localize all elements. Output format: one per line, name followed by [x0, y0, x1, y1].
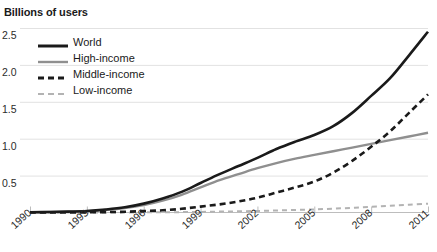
- chart-legend: WorldHigh-incomeMiddle-incomeLow-income: [38, 34, 145, 98]
- legend-swatch-middle-income: [38, 69, 68, 79]
- legend-item-world: World: [38, 34, 145, 50]
- legend-label: Low-income: [73, 85, 132, 96]
- legend-item-middle-income: Middle-income: [38, 66, 145, 82]
- legend-label: World: [73, 37, 102, 48]
- legend-swatch-high-income: [38, 53, 68, 63]
- legend-item-low-income: Low-income: [38, 82, 145, 98]
- chart-figure: Billions of users 0.51.01.52.02.5 199019…: [0, 0, 437, 252]
- y-tick-label-2.0: 2.0: [2, 66, 17, 78]
- series-line-high-income: [30, 133, 428, 212]
- legend-swatch-world: [38, 37, 68, 47]
- series-line-middle-income: [30, 94, 428, 212]
- legend-swatch-low-income: [38, 85, 68, 95]
- legend-label: High-income: [73, 53, 135, 64]
- y-tick-label-1.0: 1.0: [2, 140, 17, 152]
- y-tick-label-2.5: 2.5: [2, 29, 17, 41]
- legend-label: Middle-income: [73, 69, 145, 80]
- legend-item-high-income: High-income: [38, 50, 145, 66]
- y-tick-label-1.5: 1.5: [2, 103, 17, 115]
- y-tick-label-0.5: 0.5: [2, 177, 17, 189]
